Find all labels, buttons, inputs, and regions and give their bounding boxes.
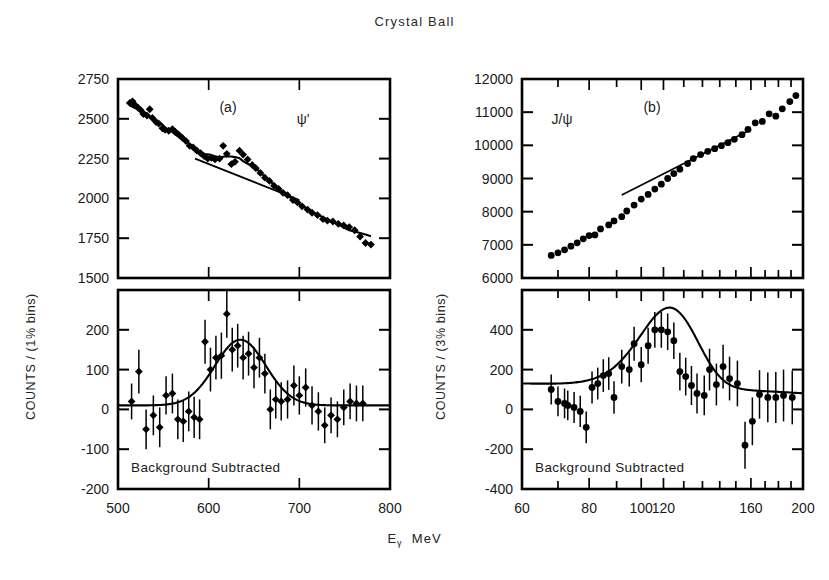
panel-b-top-datapoint [772, 113, 779, 120]
panel-b-bottom-datapoint [577, 408, 584, 415]
panel-a-top-panel-tag: (a) [219, 99, 236, 115]
panel-a-bottom-datapoint [245, 350, 253, 358]
panel-b-top-ytick-label: 11000 [475, 104, 513, 120]
panel-b-bottom-datapoint [726, 375, 733, 382]
panel-a-bottom-xtick-label: 700 [288, 500, 312, 516]
panel-b-bottom-datapoint [638, 361, 645, 368]
panel-b-top-ytick-label: 8000 [482, 204, 513, 220]
panel-b-bottom-xtick-label: 160 [739, 500, 763, 516]
panel-b-top-datapoint [676, 166, 683, 173]
panel-b-top-datapoint [684, 160, 691, 167]
panel-b-top-datapoint [580, 235, 587, 242]
panel-b-bottom-datapoint [583, 424, 590, 431]
panel-b-top-datapoint [670, 170, 677, 177]
panel-b-bottom-datapoint [764, 394, 771, 401]
panel-b-bottom-xtick-label: 200 [791, 500, 815, 516]
panel-b-top-datapoint [759, 118, 766, 125]
panel-b-top-ytick-label: 6000 [482, 270, 513, 286]
panel-b-top-datapoint [697, 151, 704, 158]
panel-b-top-datapoint [711, 145, 718, 152]
panel-b-bottom-datapoint [720, 363, 727, 370]
panel-b-top-datapoint [638, 196, 645, 203]
panel-b-bottom-xtick-label: 120 [652, 500, 676, 516]
panel-b-top-datapoint [704, 148, 711, 155]
panel-b-top-resonance-label: J/ψ [552, 111, 573, 127]
panel-a-bottom-datapoint [234, 342, 242, 350]
panel-b-bottom-ytick-label: 0 [505, 401, 513, 417]
panel-b-bottom-datapoint [676, 368, 683, 375]
panel-b-top-datapoint [555, 249, 562, 256]
panel-b-bottom-datapoint [789, 394, 796, 401]
panel-b-top-ytick-label: 12000 [474, 71, 513, 87]
panel-b-bottom-xtick-label: 100 [630, 500, 654, 516]
panel-b-bottom-datapoint [772, 394, 779, 401]
panel-b-bottom-datapoint [589, 384, 596, 391]
panel-a-bottom-datapoint [334, 415, 342, 423]
panel-a-bottom-datapoint [239, 354, 247, 362]
panel-b-bottom-datapoint [713, 381, 720, 388]
panel-b-bottom-fit-curve [522, 308, 802, 394]
panel-a-bottom-datapoint [346, 398, 354, 406]
panel-a-bottom-xtick-label: 600 [197, 500, 221, 516]
panel-panel-b-top: 6000700080009000100001100012000(b)J/ψ [474, 71, 803, 286]
panel-b-bottom-datapoint [571, 404, 578, 411]
panel-a-bottom-ytick-label: -200 [81, 481, 109, 497]
panel-b-top-datapoint [574, 239, 581, 246]
panel-a-bottom-datapoint [128, 398, 136, 406]
panel-a-bottom-datapoint [290, 382, 298, 390]
panel-a-bottom-xtick-label: 500 [106, 500, 130, 516]
panel-b-bottom-datapoint [651, 326, 658, 333]
panel-a-top-ytick-label: 1750 [78, 230, 109, 246]
panel-b-bottom-datapoint [548, 386, 555, 393]
panel-a-bottom-datapoint [185, 407, 193, 415]
panel-a-bottom-annotation: Background Subtracted [131, 460, 281, 475]
panel-b-top-datapoint [731, 136, 738, 143]
panel-a-bottom-datapoint [261, 370, 269, 378]
panel-panel-a-top: 150017502000225025002750(a)ψ' [78, 71, 390, 286]
panel-a-bottom-datapoint [223, 310, 231, 318]
panel-b-bottom-xtick-label: 80 [581, 500, 597, 516]
panel-b-bottom-datapoint [756, 391, 763, 398]
panel-b-bottom-datapoint [749, 418, 756, 425]
panel-a-bottom-datapoint [162, 392, 170, 400]
panel-a-bottom-datapoint [321, 421, 329, 429]
panel-b-bottom-ytick-label: -200 [485, 441, 513, 457]
panel-b-bottom-datapoint [626, 366, 633, 373]
panel-a-bottom-ytick-label: 100 [86, 362, 110, 378]
panel-b-top-datapoint [586, 232, 593, 239]
panel-b-top-datapoint [561, 246, 568, 253]
panel-b-bottom-datapoint [742, 442, 749, 449]
panel-a-top-ytick-label: 2500 [78, 111, 109, 127]
panel-b-bottom-datapoint [611, 394, 618, 401]
panel-b-top-datapoint [752, 119, 759, 126]
panel-a-bottom-datapoint [327, 411, 335, 419]
panel-b-top-datapoint [745, 126, 752, 133]
panel-a-top-datapoint [219, 142, 227, 150]
panel-panel-b-bottom: -400-20002004006080100120160200Backgroun… [485, 290, 815, 516]
panel-b-bottom-datapoint [688, 382, 695, 389]
panel-a-top-ytick-label: 1500 [78, 270, 109, 286]
panel-b-top-datapoint [664, 175, 671, 182]
panel-b-top-datapoint [739, 131, 746, 138]
panel-a-bottom-datapoint [201, 338, 209, 346]
panel-b-bottom-datapoint [664, 328, 671, 335]
panel-b-bottom-ytick-label: -400 [485, 481, 513, 497]
panel-b-top-datapoint [623, 208, 630, 215]
panel-b-top-datapoint [766, 110, 773, 117]
panel-b-top-datapoint [611, 218, 618, 225]
panel-a-bottom-ytick-label: 200 [86, 322, 110, 338]
panel-a-bottom-ytick-label: -100 [81, 441, 109, 457]
panel-a-bottom-datapoint [250, 364, 258, 372]
panel-b-top-datapoint [658, 181, 665, 188]
panel-b-bottom-datapoint [645, 342, 652, 349]
panel-a-bottom-ytick-label: 0 [101, 401, 109, 417]
panel-b-bottom-datapoint [670, 337, 677, 344]
panel-b-bottom-datapoint [701, 392, 708, 399]
panel-a-top-fit-curve [130, 105, 371, 236]
panel-a-top-frame [118, 79, 390, 278]
panel-panel-a-bottom: -200-1000100200500600700800Background Su… [81, 290, 402, 516]
panel-a-top-ytick-label: 2750 [78, 71, 109, 87]
crystal-ball-figure: Crystal Ball COUNTS / (1% bins) COUNTS /… [0, 0, 829, 580]
panel-b-bottom-datapoint [594, 380, 601, 387]
panel-a-top-resonance-label: ψ' [297, 111, 310, 127]
